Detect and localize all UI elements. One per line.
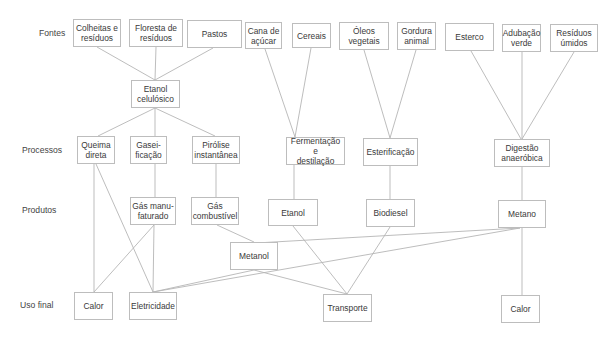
node-eletricidade: Eletricidade [129,292,177,320]
node-etanol: Etanol [268,199,318,226]
node-calor-2: Calor [501,295,540,323]
node-esterco: Esterco [445,23,494,51]
node-esterificacao: Esterificação [363,138,418,166]
node-etanol-celulosico: Etanol celulósico [131,80,180,108]
node-residuos-umidos: Resíduos úmidos [550,24,598,52]
node-gas-manufaturado: Gás manu- faturado [130,197,176,225]
node-pastos: Pastos [187,20,242,48]
row-label-processes: Processos [22,145,62,155]
node-metano: Metano [498,200,546,228]
row-label-end-use: Uso final [20,300,53,310]
node-cana: Cana de açúcar [245,22,282,49]
node-floresta: Floresta de resíduos [129,19,183,47]
node-digestao: Digestão anaeróbica [494,139,550,167]
node-colheitas: Colheitas e resíduos [73,19,121,47]
node-gaseificacao: Gasei- ficação [130,136,167,164]
node-calor-1: Calor [74,292,113,320]
node-oleos: Óleos vegetais [339,22,389,50]
row-label-sources: Fontes [39,28,65,38]
node-cereais: Cereais [292,23,331,48]
node-pirolise: Pirólise instantânea [192,136,240,164]
node-fermentacao: Fermentação e destilação [286,137,345,165]
row-label-products: Produtos [22,205,56,215]
node-biodiesel: Biodiesel [366,199,415,227]
node-transporte: Transporte [323,294,372,322]
node-metanol: Metanol [230,242,278,270]
node-queima-direta: Queima direta [77,136,115,164]
node-gordura: Gordura animal [397,22,436,50]
node-adubacao: Adubação verde [502,24,541,52]
node-gas-combustivel: Gás combustível [191,197,239,225]
